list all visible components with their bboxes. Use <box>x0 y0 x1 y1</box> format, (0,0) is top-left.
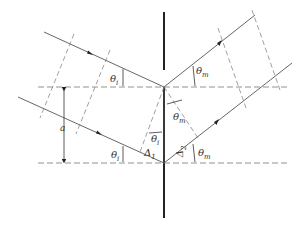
label-delta-1: Δ1 <box>144 148 156 161</box>
label-a: a <box>60 124 65 133</box>
diagram-svg <box>0 0 304 229</box>
label-theta-i-mid: θi <box>151 134 159 147</box>
diagram-canvas: θi θm a θi θm Δ1 Δ2 θi θm <box>0 0 304 229</box>
label-theta-m-bottom: θm <box>198 148 211 161</box>
label-theta-m-top: θm <box>196 66 209 79</box>
ray-direction-arrows <box>87 40 222 135</box>
label-delta-2: Δ2 <box>175 146 188 158</box>
label-theta-i-bottom: θi <box>111 150 119 163</box>
wavefronts <box>40 10 280 152</box>
label-theta-i-top: θi <box>110 74 118 87</box>
label-theta-m-mid: θm <box>173 112 186 125</box>
